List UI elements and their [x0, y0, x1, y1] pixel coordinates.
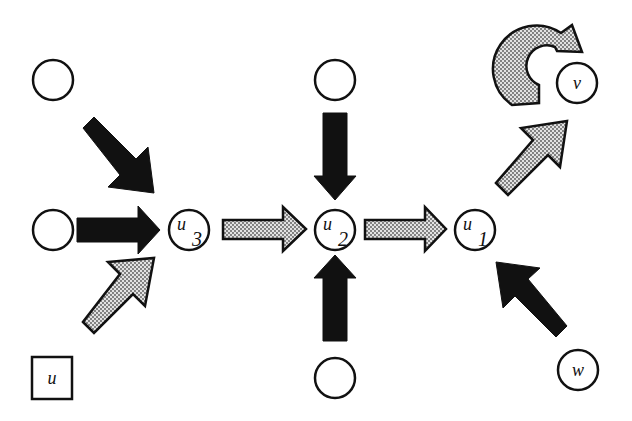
node-u-square: u	[32, 357, 72, 399]
node-u1: u 1	[455, 210, 495, 250]
node-u3: u 3	[169, 210, 209, 250]
arrow-stippled-u3-to-u2	[223, 207, 306, 251]
arrow-stippled-u1-to-v	[496, 121, 567, 195]
arrow-dark-midleft-to-u3	[77, 206, 160, 254]
node-w-label: w	[572, 360, 584, 380]
node-u1-label: u	[463, 214, 472, 234]
node-empty-top-center	[315, 60, 355, 100]
node-v-label: v	[573, 73, 581, 93]
node-u-label: u	[48, 368, 57, 388]
arrow-stippled-u-to-u3	[83, 258, 154, 333]
node-u2-label: u	[323, 214, 332, 234]
node-empty-bottom-center	[315, 358, 355, 398]
node-u2-subscript: 2	[338, 228, 348, 250]
arrow-dark-topleft-to-u3	[83, 117, 154, 193]
arrow-dark-top-to-u2	[314, 113, 356, 200]
arrow-dark-bottom-to-u2	[314, 255, 356, 341]
node-empty-top-left	[33, 60, 73, 100]
node-v: v	[557, 63, 597, 103]
node-u1-subscript: 1	[478, 228, 488, 250]
node-u3-label: u	[177, 214, 186, 234]
node-u3-subscript: 3	[191, 228, 202, 250]
arrow-stippled-u2-to-u1	[365, 207, 446, 251]
arrow-dark-w-to-u1	[496, 262, 567, 337]
node-w: w	[558, 350, 598, 390]
node-u2: u 2	[315, 210, 355, 250]
node-empty-mid-left	[33, 210, 73, 250]
diagram-canvas: u 3 u 2 u 1 v w u	[0, 0, 632, 421]
